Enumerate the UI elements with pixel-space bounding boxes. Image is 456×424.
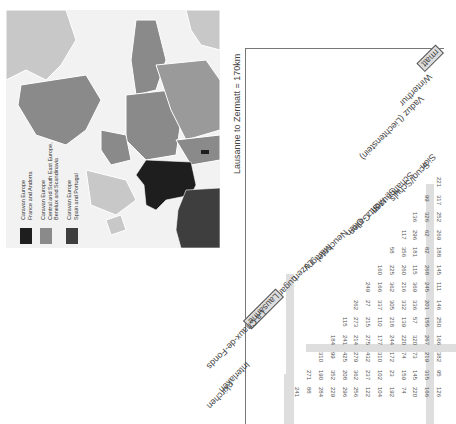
distance-value: 220 — [412, 387, 418, 397]
distance-value: 256 — [353, 387, 359, 397]
distance-value: 215 — [365, 317, 371, 327]
distance-value: 249 — [365, 282, 371, 292]
distance-value: 296 — [342, 387, 348, 397]
distance-value: 305 — [389, 300, 395, 310]
distance-value: 332 — [401, 300, 407, 310]
distance-value: 57 — [412, 317, 418, 324]
europe-map-page: Caravan Europe France and Andorra Carava… — [6, 10, 220, 248]
distance-value: 336 — [412, 300, 418, 310]
distance-value: 271 — [306, 370, 312, 380]
distance-value: 160 — [377, 265, 383, 275]
distance-value: 166 — [424, 387, 430, 397]
distance-value: 317 — [436, 195, 442, 205]
distance-value: 362 — [389, 282, 395, 292]
distance-value: 95 — [436, 370, 442, 377]
legend-swatch — [20, 228, 32, 244]
distance-value: 241 — [342, 335, 348, 345]
distance-value: 208 — [342, 370, 348, 380]
town-label-zermatt: rmatt — [417, 45, 444, 72]
distance-value: 172 — [389, 352, 395, 362]
distance-value: 352 — [330, 370, 336, 380]
distance-value: 190 — [318, 370, 324, 380]
distance-value: 320 — [412, 335, 418, 345]
distance-value: 99 — [330, 352, 336, 359]
distance-value: 244 — [389, 335, 395, 345]
distance-value: 166 — [436, 335, 442, 345]
chart-title: Lausanne to Zermatt = 170km — [232, 54, 242, 174]
distance-value: 177 — [377, 335, 383, 345]
distance-value: 273 — [353, 317, 359, 327]
town-label-vaduz: Vaduz (Liechtenstein) — [358, 94, 426, 162]
distance-value: 146 — [436, 300, 442, 310]
distance-value: 241 — [294, 387, 300, 397]
distance-value: 181 — [412, 247, 418, 257]
distance-value: 216 — [401, 282, 407, 292]
distance-value: 73 — [412, 352, 418, 359]
distance-value: 260 — [401, 265, 407, 275]
distance-value: 432 — [365, 352, 371, 362]
distance-value: 250 — [436, 317, 442, 327]
distance-value: 275 — [365, 335, 371, 345]
distance-value: 220 — [401, 335, 407, 345]
distance-value: 225 — [389, 265, 395, 275]
distance-value: 214 — [353, 335, 359, 345]
distance-value: 315 — [424, 370, 430, 380]
distance-value: 269 — [436, 230, 442, 240]
distance-value: 126 — [436, 387, 442, 397]
distance-value: 184 — [330, 335, 336, 345]
distance-value: 262 — [353, 300, 359, 310]
distance-value: 110 — [377, 317, 383, 327]
distance-value: 356 — [401, 247, 407, 257]
distance-value: 145 — [436, 265, 442, 275]
distance-value: 284 — [318, 387, 324, 397]
distance-value: 310 — [377, 352, 383, 362]
legend-label: Caravan Europe Spain and Portugal — [66, 173, 79, 220]
distance-value: 201 — [424, 300, 430, 310]
distance-value: 117 — [401, 230, 407, 240]
distance-value: 337 — [377, 300, 383, 310]
distance-value: 218 — [389, 317, 395, 327]
distance-value: 229 — [330, 387, 336, 397]
map-legend: Caravan Europe France and Andorra Carava… — [14, 132, 84, 248]
distance-value: 115 — [412, 265, 418, 275]
distance-value: 369 — [412, 282, 418, 292]
distance-value: 139 — [401, 317, 407, 327]
distance-value: 23 — [389, 370, 395, 377]
distance-value: 279 — [353, 352, 359, 362]
distance-value: 310 — [318, 352, 324, 362]
town-label-la-chaux-de-fonds: La Chaux-de-Fonds — [205, 308, 268, 371]
legend-swatch — [66, 228, 78, 244]
distance-value: 115 — [342, 317, 348, 327]
distance-value: 111 — [436, 282, 442, 291]
distance-value: 252 — [436, 212, 442, 222]
distance-value: 74 — [401, 387, 407, 394]
distance-value: 104 — [377, 387, 383, 397]
distance-value: 425 — [342, 352, 348, 362]
legend-label: Caravan Europe Central and South East Eu… — [40, 142, 60, 220]
distance-value: 102 — [377, 370, 383, 380]
distance-value: 62 — [424, 230, 430, 237]
distance-value: 245 — [424, 282, 430, 292]
distance-value: 159 — [401, 370, 407, 380]
distance-value: 382 — [436, 352, 442, 362]
legend-swatch — [40, 228, 52, 244]
distance-value: 188 — [436, 247, 442, 257]
legend-label: Caravan Europe France and Andorra — [20, 171, 33, 220]
distance-value: 362 — [353, 370, 359, 380]
distance-value: 99 — [424, 195, 430, 202]
distance-value: 122 — [365, 387, 371, 397]
distance-value: 155 — [424, 317, 430, 327]
distance-value: 27 — [365, 300, 371, 307]
distance-value: 136 — [412, 212, 418, 222]
distance-value: 74 — [401, 352, 407, 359]
distance-value: 88 — [306, 387, 312, 394]
distance-value: 267 — [424, 335, 430, 345]
distance-value: 296 — [412, 230, 418, 240]
distance-value: 221 — [436, 177, 442, 187]
distance-chart: Lausanne to Zermatt = 170km rmatt Winter… — [245, 48, 444, 424]
distance-value: 58 — [389, 247, 395, 254]
distance-value: 219 — [424, 352, 430, 362]
column-shade — [286, 274, 294, 424]
distance-value: 192 — [389, 387, 395, 397]
distance-value: 166 — [377, 282, 383, 292]
